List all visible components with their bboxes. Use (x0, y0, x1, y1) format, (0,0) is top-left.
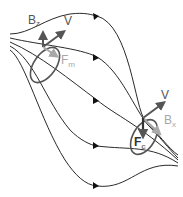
v-vector-right (143, 104, 162, 118)
bz-main: B (28, 13, 36, 27)
bx-sub: x (172, 120, 176, 129)
arrowhead-icon (93, 97, 99, 104)
label-bz: Bz (28, 13, 40, 28)
label-fc: Fc (134, 135, 146, 151)
label-v-right: V (161, 88, 169, 102)
field-line-1 (10, 13, 178, 155)
fm-sub: m (68, 60, 75, 69)
fc-sub: c (141, 142, 145, 151)
bz-sub: z (36, 19, 40, 28)
label-bx: Bx (164, 113, 176, 129)
field-direction-arrows (93, 13, 99, 189)
field-line-5 (10, 50, 178, 186)
label-fm: Fm (61, 53, 75, 69)
arrowhead-icon (93, 54, 99, 61)
v-left-main: V (64, 14, 72, 28)
left-flux-loop (25, 33, 66, 88)
bx-main: B (164, 113, 172, 127)
v-vector-left (43, 33, 62, 47)
v-right-main: V (161, 88, 169, 102)
label-v-left: V (64, 14, 72, 28)
field-diagram (0, 0, 183, 197)
arrowhead-icon (93, 13, 99, 20)
arrowhead-icon (93, 182, 99, 189)
arrowhead-icon (93, 142, 99, 149)
